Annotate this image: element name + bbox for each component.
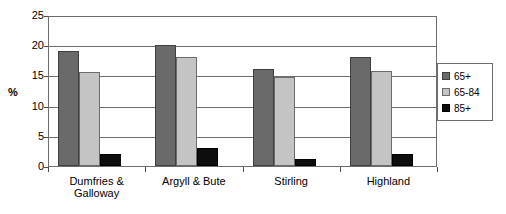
legend-swatch-icon bbox=[442, 72, 450, 80]
bar bbox=[253, 69, 274, 166]
legend-swatch-icon bbox=[442, 104, 450, 112]
bar bbox=[58, 51, 79, 166]
x-axis-tick-mark bbox=[340, 167, 341, 172]
x-axis-tick-mark bbox=[243, 167, 244, 172]
legend-item: 85+ bbox=[442, 100, 492, 116]
chart-legend: 65+65-8485+ bbox=[437, 63, 493, 121]
category-label-line: Argyll & Bute bbox=[145, 175, 242, 187]
legend-label: 65+ bbox=[454, 71, 471, 82]
y-axis-tick: 25 bbox=[14, 10, 44, 21]
x-axis-category-label: Dumfries &Galloway bbox=[48, 175, 145, 199]
legend-swatch-icon bbox=[442, 88, 450, 96]
y-axis-tick-label: 5 bbox=[18, 131, 44, 142]
y-axis-tick: 5 bbox=[14, 131, 44, 142]
bar-group bbox=[244, 17, 341, 166]
bar bbox=[155, 45, 176, 166]
bar bbox=[371, 71, 392, 166]
y-axis-tick: 20 bbox=[14, 40, 44, 51]
bar bbox=[100, 154, 121, 166]
bar bbox=[197, 148, 218, 166]
x-axis-tick-mark bbox=[437, 167, 438, 172]
bar bbox=[79, 72, 100, 166]
bar bbox=[392, 154, 413, 166]
legend-item: 65+ bbox=[442, 68, 492, 84]
bar-chart: % 0510152025 Dumfries &GallowayArgyll & … bbox=[0, 0, 506, 214]
bar-group bbox=[49, 17, 146, 166]
legend-label: 85+ bbox=[454, 103, 471, 114]
plot-area bbox=[48, 16, 437, 167]
bar-group bbox=[341, 17, 438, 166]
x-axis-category-label: Highland bbox=[340, 175, 437, 187]
bar-group bbox=[146, 17, 243, 166]
category-label-line: Galloway bbox=[48, 187, 145, 199]
bar bbox=[295, 159, 316, 166]
bar bbox=[274, 77, 295, 166]
y-axis-tick-label: 25 bbox=[18, 10, 44, 21]
legend-item: 65-84 bbox=[442, 84, 492, 100]
category-label-line: Stirling bbox=[243, 175, 340, 187]
y-axis-tick-label: 20 bbox=[18, 40, 44, 51]
legend-label: 65-84 bbox=[454, 87, 480, 98]
bar bbox=[176, 57, 197, 166]
y-axis-tick-label: 0 bbox=[18, 161, 44, 172]
x-axis-tick-mark bbox=[48, 167, 49, 172]
y-axis-tick: 10 bbox=[14, 101, 44, 112]
x-axis-tick-mark bbox=[145, 167, 146, 172]
y-axis-title: % bbox=[2, 86, 24, 98]
bar bbox=[350, 57, 371, 166]
y-axis-tick-label: 15 bbox=[18, 70, 44, 81]
y-axis-tick: 15 bbox=[14, 70, 44, 81]
category-label-line: Highland bbox=[340, 175, 437, 187]
x-axis-category-label: Argyll & Bute bbox=[145, 175, 242, 187]
y-axis-tick-label: 10 bbox=[18, 101, 44, 112]
x-axis-category-label: Stirling bbox=[243, 175, 340, 187]
category-label-line: Dumfries & bbox=[48, 175, 145, 187]
y-axis-tick: 0 bbox=[14, 161, 44, 172]
